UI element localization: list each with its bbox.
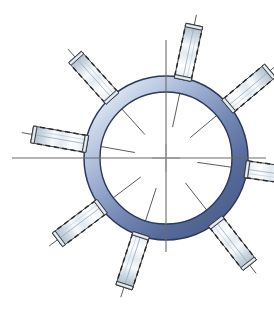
diagram-canvas bbox=[0, 0, 274, 322]
bolt-4 bbox=[209, 216, 257, 271]
bolt-1 bbox=[174, 23, 202, 81]
bolt-5 bbox=[116, 231, 149, 290]
bolt-8 bbox=[69, 51, 119, 104]
bolt-2 bbox=[222, 64, 274, 113]
bolt-3 bbox=[244, 161, 274, 186]
radial-bolt-ring-drawing bbox=[0, 0, 274, 322]
bolt-7 bbox=[31, 126, 89, 152]
bolt-6 bbox=[52, 199, 107, 246]
